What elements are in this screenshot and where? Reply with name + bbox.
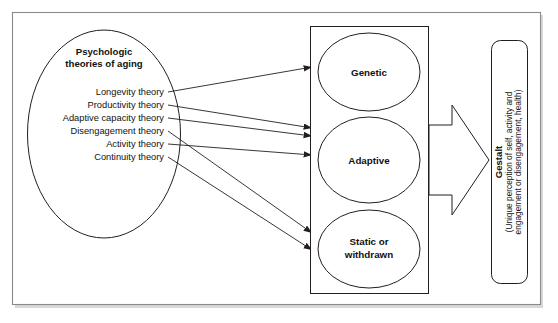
- gestalt-title: Gestalt: [493, 145, 504, 178]
- theory-label-longevity: Longevity theory: [96, 87, 165, 97]
- outcome-label-adaptive: Adaptive: [348, 155, 390, 166]
- source-title-line1: Psychologic: [76, 46, 133, 57]
- diagram-canvas: Psychologic theories of aging Longevity …: [0, 0, 558, 323]
- psychologic-theories-diagram: Psychologic theories of aging Longevity …: [0, 0, 558, 323]
- outcome-label-static-line1: Static or: [349, 236, 388, 247]
- theory-label-activity: Activity theory: [106, 139, 164, 149]
- theory-label-continuity: Continuity theory: [94, 152, 164, 162]
- theory-label-productivity: Productivity theory: [88, 100, 165, 110]
- gestalt-description-line2: engagement or disengagement, health): [513, 89, 523, 234]
- source-title-line2: theories of aging: [65, 58, 142, 69]
- outcome-label-static-line2: withdrawn: [344, 249, 393, 260]
- theory-label-disengagement: Disengagement theory: [70, 126, 164, 136]
- outcome-label-genetic: Genetic: [351, 67, 387, 78]
- theory-label-adaptive-capacity: Adaptive capacity theory: [63, 113, 165, 123]
